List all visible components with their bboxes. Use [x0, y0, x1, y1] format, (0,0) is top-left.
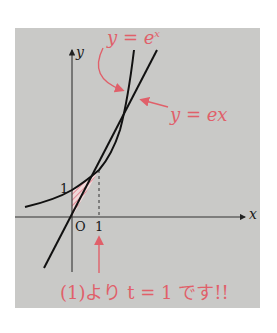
annotation-t-equals-1: (1)より t = 1 です!!	[60, 278, 229, 304]
x-axis-label: x	[249, 206, 257, 222]
y-axis-label: y	[76, 44, 84, 60]
origin-label: O	[75, 219, 86, 234]
arrow-tangent-label	[142, 100, 168, 107]
y-tick-1: 1	[60, 181, 68, 196]
label-exp-curve: y = ex	[107, 27, 160, 48]
x-tick-1: 1	[95, 219, 103, 234]
curve-exponential	[25, 50, 134, 207]
arrow-exp-label	[98, 48, 122, 90]
shaded-area	[72, 170, 99, 217]
line-tangent	[44, 50, 157, 268]
label-tangent-line: y = ex	[170, 104, 228, 125]
